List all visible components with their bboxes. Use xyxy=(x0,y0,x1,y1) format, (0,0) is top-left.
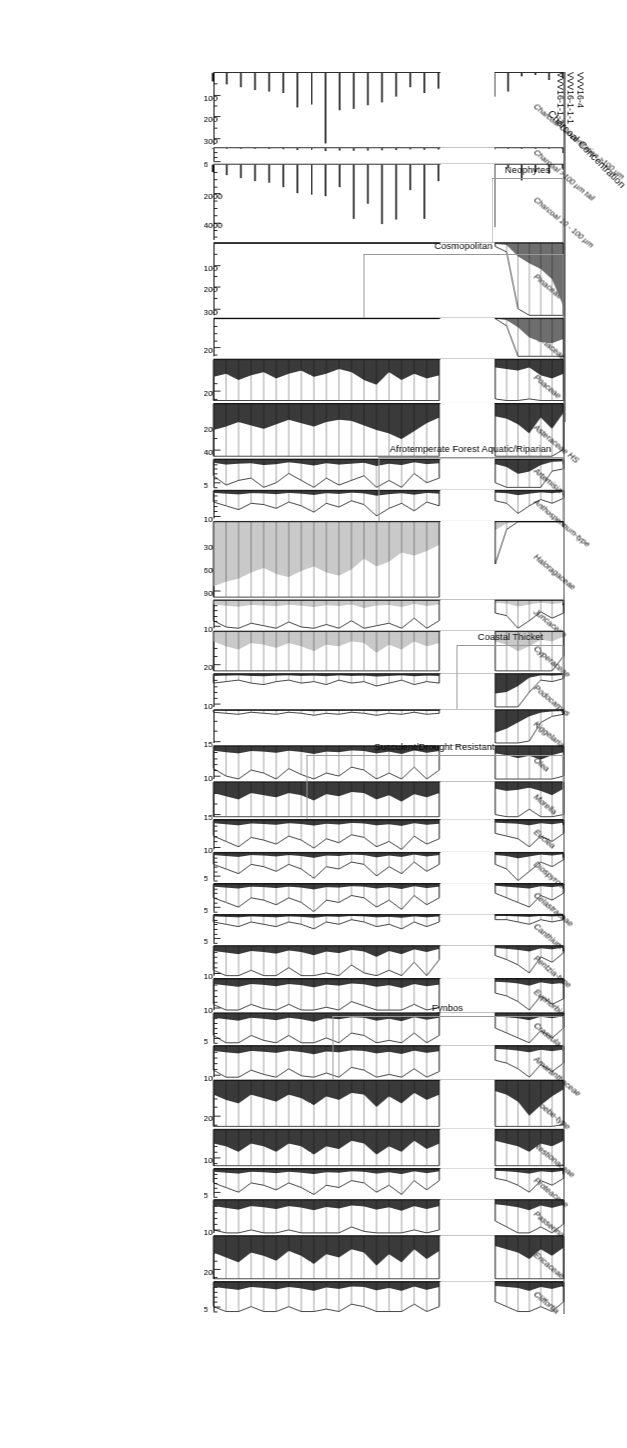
taxon-column: 10 xyxy=(213,819,563,849)
taxon-column: 10 xyxy=(213,490,563,519)
core-gap xyxy=(440,781,494,817)
group-bracket: Coastal Thicket xyxy=(457,709,564,710)
taxon-curve xyxy=(213,820,563,849)
group-bracket: Neophytes xyxy=(491,242,563,243)
axis-tick-label: 10 xyxy=(203,1157,212,1164)
taxon-curve xyxy=(213,1282,563,1311)
core-gap xyxy=(440,318,494,357)
taxon-curve xyxy=(213,782,563,816)
core-gap xyxy=(440,819,494,850)
group-bracket-arm xyxy=(562,645,563,709)
core-gap xyxy=(440,359,494,402)
core-gap xyxy=(440,852,494,881)
taxon-curve xyxy=(213,674,563,707)
axis-tick-label: 10 xyxy=(203,776,212,783)
taxon-column: 100200300 xyxy=(213,72,563,145)
axis-tick-label: 5 xyxy=(203,1307,208,1314)
axis-tick-label: 90 xyxy=(203,591,212,598)
core-gap xyxy=(440,147,494,162)
taxon-curve xyxy=(213,1130,563,1166)
axis-tick-label: 20 xyxy=(203,1269,212,1276)
axis-tick-label: 10 xyxy=(203,516,212,523)
taxon-curve xyxy=(213,1013,563,1042)
taxon-curve xyxy=(213,1081,563,1127)
group-bracket: Cosmopolitan xyxy=(363,318,563,319)
axis-tick xyxy=(213,161,220,162)
taxon-curve xyxy=(213,1236,563,1279)
group-label: Coastal Thicket xyxy=(477,631,542,642)
taxon-column: 5 xyxy=(213,914,563,943)
group-bracket-arm xyxy=(457,645,458,709)
core-gap xyxy=(440,521,494,598)
taxon-curve xyxy=(213,73,563,145)
taxon-column: 15 xyxy=(213,709,563,743)
axis-tick-label: 5 xyxy=(203,907,208,914)
axis-tick-label: 20 xyxy=(203,348,212,355)
group-label: Fynbos xyxy=(432,1002,463,1013)
axis-tick-label: 20 xyxy=(203,427,212,434)
group-bracket-arm xyxy=(562,1016,563,1080)
core-gap xyxy=(440,914,494,943)
axis-tick-label: 5 xyxy=(203,876,208,883)
axis-tick xyxy=(213,1197,217,1198)
core-gap xyxy=(440,945,494,976)
axis-tick xyxy=(213,912,217,913)
core-id-label: VVV16-1-1-1 xyxy=(565,72,575,224)
core-gap xyxy=(440,1168,494,1197)
axis-tick-label: 5 xyxy=(203,938,208,945)
core-gap xyxy=(440,1080,494,1128)
axis-tick-label: 5 xyxy=(203,1192,208,1199)
taxon-column: 10 xyxy=(213,1045,563,1077)
axis-tick-label: 20 xyxy=(203,391,212,398)
axis-tick-label: 40 xyxy=(203,449,212,456)
core-gap xyxy=(440,1013,494,1044)
taxon-column: 15 xyxy=(213,781,563,816)
taxon-column: 5 xyxy=(213,459,563,488)
taxon-column: 20 xyxy=(213,359,563,401)
axis-tick-label: 60 xyxy=(203,568,212,575)
taxon-curve xyxy=(213,710,563,743)
axis-tick-label: 30 xyxy=(203,545,212,552)
taxon-column: 20 xyxy=(213,318,563,357)
pollen-plot-strip: Charcoal Concentration >100 µmCharcoal >… xyxy=(213,72,563,1314)
axis-tick-label: 5 xyxy=(203,1038,208,1045)
group-label: Cosmopolitan xyxy=(434,240,492,251)
group-label: Neophytes xyxy=(504,164,549,175)
axis-tick-label: 15 xyxy=(203,815,212,822)
group-bracket-spine xyxy=(332,1016,563,1017)
taxon-curve xyxy=(213,1169,563,1197)
taxon-curve xyxy=(213,915,563,943)
taxon-curve xyxy=(213,319,563,357)
taxon-column: 5 xyxy=(213,1281,563,1311)
group-label: Afrotemperate Forest Aquatic/Riparian xyxy=(390,443,552,454)
group-label: Succulent/Drought Resistant xyxy=(374,741,494,752)
group-bracket-arm xyxy=(491,178,492,242)
axis-tick-label: 10 xyxy=(203,847,212,854)
taxon-column: 5 xyxy=(213,883,563,912)
group-bracket-arm xyxy=(378,457,379,521)
taxon-column: 10 xyxy=(213,600,563,629)
taxon-column: 10 xyxy=(213,1129,563,1166)
group-bracket-spine xyxy=(491,178,563,179)
taxon-curve xyxy=(213,979,563,1010)
core-gap xyxy=(440,459,494,488)
taxon-column: 20 xyxy=(213,1235,563,1278)
taxon-column: 10 xyxy=(213,673,563,707)
axis-tick xyxy=(213,1043,217,1044)
axis-tick-label: 10 xyxy=(203,1230,212,1237)
group-bracket-arm xyxy=(363,254,364,318)
taxon-curve xyxy=(213,460,563,488)
axis-tick-label: 20 xyxy=(203,664,212,671)
taxon-column: 20 xyxy=(213,1080,563,1127)
taxon-column: 6 xyxy=(213,147,563,161)
taxon-curve xyxy=(213,600,563,628)
core-gap xyxy=(440,1045,494,1078)
core-gap xyxy=(440,600,494,629)
taxon-curve xyxy=(213,148,563,161)
group-bracket-arm xyxy=(562,178,563,242)
taxon-curve xyxy=(213,360,563,401)
axis-tick-label: 10 xyxy=(203,973,212,980)
core-gap xyxy=(440,1281,494,1312)
taxon-curve xyxy=(213,1046,563,1077)
group-bracket-spine xyxy=(457,645,564,646)
